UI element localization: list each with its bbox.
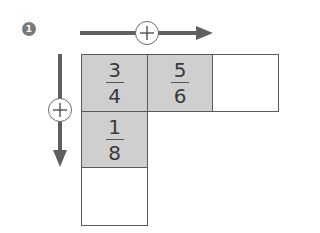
fraction: 5 6 [148,60,213,106]
cell-r1c3-answer[interactable] [212,54,279,112]
cell-r1c2: 5 6 [147,54,214,112]
fraction: 1 8 [82,117,147,163]
denominator: 4 [108,86,121,106]
fraction-bar [106,139,124,140]
cell-r2c1: 1 8 [81,111,148,169]
horizontal-add-arrow [80,22,213,45]
vertical-add-arrow [49,54,72,167]
numerator: 1 [108,117,121,137]
fraction-bar [171,82,189,83]
denominator: 8 [108,143,121,163]
denominator: 6 [174,86,187,106]
fraction: 3 4 [82,60,147,106]
fraction-bar [106,82,124,83]
cell-r3c1-answer[interactable] [81,167,148,226]
numerator: 5 [174,60,187,80]
numerator: 3 [108,60,121,80]
cell-r1c1: 3 4 [81,54,148,112]
